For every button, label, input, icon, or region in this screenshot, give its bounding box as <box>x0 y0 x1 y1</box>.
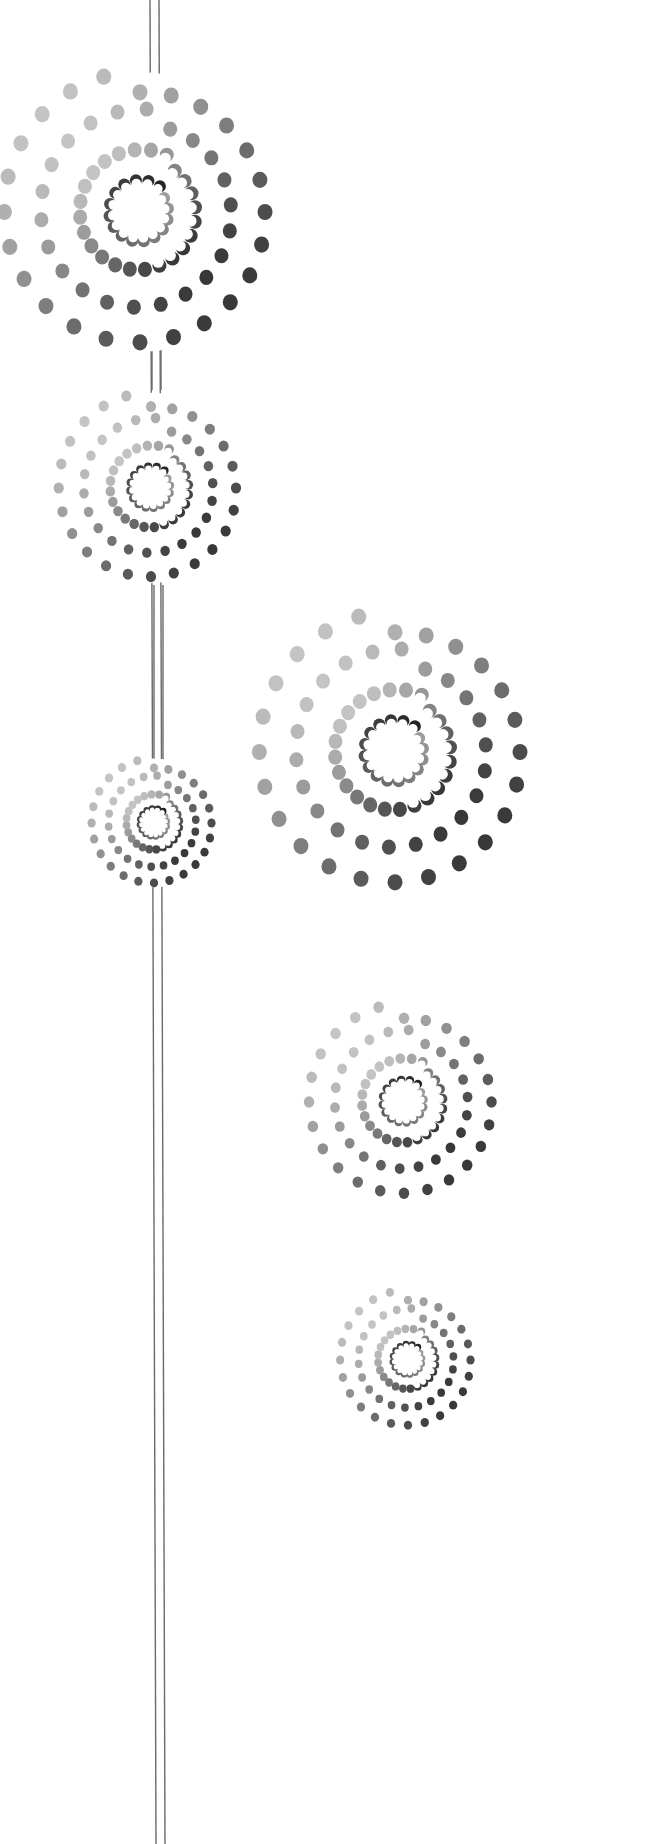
spiral-dot <box>133 334 148 350</box>
spiral-dot <box>84 115 98 130</box>
spiral-dot <box>289 752 303 767</box>
spiral-dot <box>257 779 272 795</box>
spiral-dot <box>404 1296 412 1305</box>
spiral-dot <box>378 802 392 817</box>
spiral-dot <box>449 1401 457 1410</box>
spiral-dot <box>134 877 142 886</box>
spiral-dot <box>167 403 177 414</box>
spiral-dot <box>437 1389 445 1397</box>
spiral-dot <box>146 401 156 412</box>
spiral-dot <box>315 1048 326 1059</box>
spiral-dot <box>321 858 336 874</box>
spiral-dot <box>462 1110 472 1121</box>
spiral-dot <box>128 142 142 157</box>
spiral-dot <box>419 627 434 643</box>
spiral-dot <box>399 1188 410 1199</box>
spiral-dot <box>199 790 207 799</box>
spiral-dot <box>290 646 305 662</box>
spiral-dot <box>34 212 48 227</box>
spiral-dot <box>476 1141 487 1152</box>
spiral-dot <box>440 1329 448 1337</box>
spiral-dot <box>318 623 333 639</box>
spiral-dot <box>465 1372 473 1381</box>
spiral-dot <box>335 1121 345 1132</box>
spiral-dot <box>394 1327 402 1335</box>
spiral-dot <box>174 786 182 794</box>
spiral-dot <box>153 771 161 779</box>
spiral-dot <box>114 456 124 466</box>
spiral-dot <box>341 705 355 720</box>
spiral-dot <box>375 1185 386 1196</box>
spiral-dot <box>152 845 160 853</box>
spiral-dot <box>90 835 98 844</box>
spiral-dot <box>345 1138 355 1149</box>
spiral-dot <box>55 263 69 278</box>
spiral-dot <box>109 797 117 805</box>
spiral-dot <box>365 1120 375 1131</box>
spiral-dot <box>354 871 369 887</box>
spiral-dot <box>84 507 94 517</box>
spiral-dot <box>223 294 238 310</box>
spiral-dot <box>154 297 168 312</box>
spiral-dot <box>227 461 237 472</box>
spiral-dot <box>101 560 111 571</box>
spiral-dot <box>399 683 413 698</box>
spiral-dot <box>444 1174 455 1185</box>
spiral-dot <box>331 822 345 837</box>
spiral-dot <box>434 827 448 842</box>
spiral-dot <box>207 496 217 506</box>
spiral-dot <box>374 1358 382 1366</box>
spiral-dot <box>207 544 217 555</box>
spiral-dot <box>140 101 154 116</box>
spiral-dot <box>350 789 364 804</box>
spiral-dot <box>419 1314 427 1322</box>
spiral-dot <box>316 674 330 689</box>
spiral-dot <box>1 169 16 185</box>
spiral-dot <box>363 797 377 812</box>
spiral-dot <box>124 855 132 863</box>
spiral-dot <box>145 845 153 853</box>
spiral-dot <box>252 744 267 760</box>
spiral-dot <box>296 779 310 794</box>
spiral-dot <box>114 846 122 854</box>
spiral-dot <box>357 1403 365 1412</box>
spiral-dot <box>388 624 403 640</box>
spiral-dot <box>105 774 113 783</box>
spiral-dot <box>507 712 522 728</box>
spiral-dot <box>56 458 66 469</box>
spiral-dot <box>371 1413 379 1422</box>
spiral-dot <box>421 1418 429 1427</box>
spiral-dot <box>459 1387 467 1396</box>
spiral-dot <box>122 449 132 459</box>
spiral-dot <box>383 682 397 697</box>
spiral-dot <box>190 779 198 788</box>
spiral-dot <box>366 644 380 659</box>
spiral-dot <box>73 210 87 225</box>
spiral-dot <box>434 1303 442 1312</box>
spiral-dot <box>61 134 75 149</box>
spiral-dot <box>351 609 366 625</box>
spiral-dot <box>183 794 191 802</box>
spiral-dot <box>134 796 142 804</box>
spiral-dot <box>186 133 200 148</box>
spiral-dot <box>195 446 205 456</box>
spiral-dot <box>179 870 187 879</box>
spiral-dot <box>123 262 137 277</box>
spiral-dot <box>112 146 126 161</box>
spiral-dot <box>395 1163 405 1174</box>
spiral-dot <box>95 787 103 796</box>
spiral-dot <box>445 1378 453 1386</box>
spiral-dot <box>369 1295 377 1304</box>
spiral-dot <box>17 271 32 287</box>
spiral-dot <box>113 422 123 432</box>
spiral-dot <box>306 1072 317 1083</box>
spiral-dot <box>86 165 100 180</box>
spiral-dot <box>478 834 493 850</box>
spiral-dot <box>99 401 109 412</box>
spiral-dot <box>258 204 273 220</box>
spiral-dot <box>76 282 90 297</box>
spiral-dot <box>360 1111 370 1122</box>
spiral-dot <box>150 879 158 888</box>
spiral-dot <box>132 443 142 453</box>
spiral-dot <box>97 435 107 445</box>
